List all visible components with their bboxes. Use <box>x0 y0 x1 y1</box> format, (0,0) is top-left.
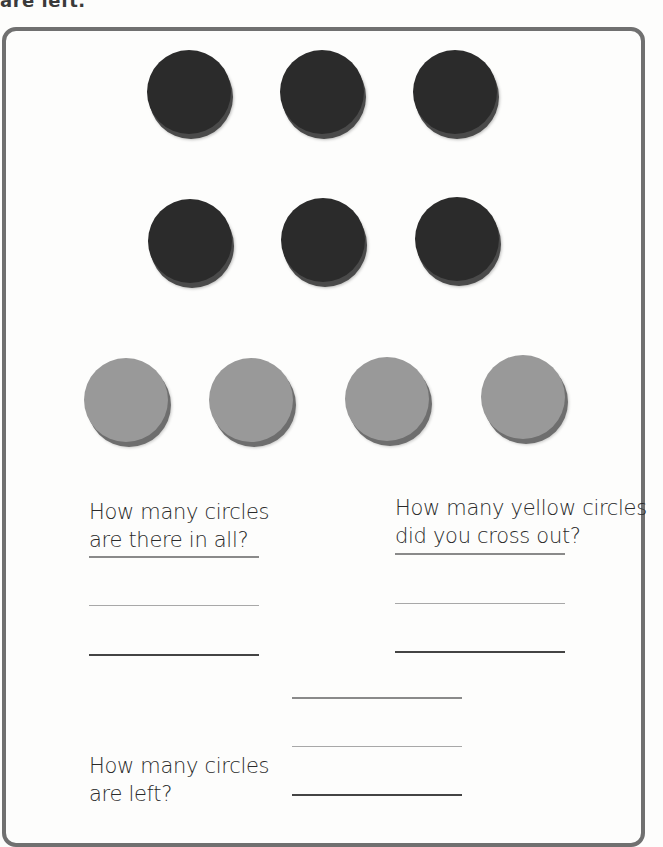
cut-off-instruction-text: are left. <box>0 0 86 11</box>
worksheet-border-box <box>2 27 645 847</box>
answer-line-left-middle[interactable] <box>292 746 462 747</box>
question-circles-left: How many circles are left? <box>89 752 269 808</box>
dark-circle <box>413 50 497 134</box>
question-left-line2: are left? <box>89 780 269 808</box>
question-left-line1: How many circles <box>89 752 269 780</box>
question-total-line2: are there in all? <box>89 526 269 554</box>
answer-line-crossed-bottom[interactable] <box>395 651 565 653</box>
question-total-circles: How many circles are there in all? <box>89 498 269 554</box>
dark-circle <box>281 198 365 282</box>
answer-line-crossed-middle[interactable] <box>395 603 565 604</box>
dark-circle <box>147 50 231 134</box>
question-crossed-line1: How many yellow circles <box>395 494 647 522</box>
question-yellow-crossed-out: How many yellow circles did you cross ou… <box>395 494 647 550</box>
yellow-circle[interactable] <box>345 357 429 441</box>
yellow-circle[interactable] <box>209 358 293 442</box>
dark-circle <box>415 197 499 281</box>
yellow-circle[interactable] <box>481 355 565 439</box>
answer-line-left-top[interactable] <box>292 697 462 699</box>
yellow-circle[interactable] <box>84 358 168 442</box>
question-total-line1: How many circles <box>89 498 269 526</box>
answer-line-left-bottom[interactable] <box>292 794 462 796</box>
dark-circle <box>280 50 364 134</box>
answer-line-total-middle[interactable] <box>89 605 259 606</box>
answer-line-total-top[interactable] <box>89 556 259 558</box>
question-crossed-line2: did you cross out? <box>395 522 647 550</box>
dark-circle <box>148 199 232 283</box>
answer-line-total-bottom[interactable] <box>89 654 259 656</box>
answer-line-crossed-top[interactable] <box>395 553 565 555</box>
